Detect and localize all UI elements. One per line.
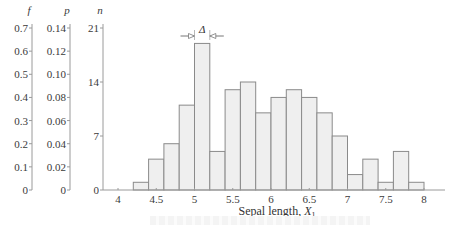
x-tick-label: 8	[421, 193, 427, 205]
n-tick-label: 7	[94, 130, 100, 142]
histogram-bar	[302, 97, 317, 190]
histogram-bar	[271, 97, 286, 190]
f-axis-label: f	[27, 4, 32, 16]
p-tick-label: 0.12	[47, 45, 66, 57]
n-axis: 071421n	[88, 4, 103, 196]
histogram-bar	[286, 90, 301, 190]
f-tick-label: 0.4	[14, 91, 28, 103]
f-tick-label: 0.2	[14, 138, 28, 150]
histogram-bar	[240, 82, 255, 190]
x-tick-label: 7.5	[379, 193, 393, 205]
histogram-bar	[256, 113, 271, 190]
f-tick-label: 0.5	[14, 68, 28, 80]
histogram-bar	[393, 151, 408, 190]
n-tick-label: 0	[94, 184, 100, 196]
p-tick-label: 0.14	[47, 22, 67, 34]
n-tick-label: 21	[88, 22, 99, 34]
faint-caption	[150, 216, 370, 225]
x-tick-label: 7	[345, 193, 351, 205]
delta-label: Δ	[198, 23, 205, 35]
p-tick-label: 0	[61, 184, 67, 196]
n-axis-label: n	[97, 4, 103, 16]
histogram-bar	[210, 151, 225, 190]
x-tick-label: 5	[192, 193, 198, 205]
histogram-bar	[332, 136, 347, 190]
f-tick-label: 0.1	[14, 161, 28, 173]
p-axis: 00.020.040.060.080.100.120.14p	[47, 4, 71, 196]
histogram-bar	[179, 105, 194, 190]
x-axis: 44.555.566.577.58	[103, 188, 445, 205]
f-axis: 00.10.20.30.40.50.60.7f	[14, 4, 32, 196]
histogram-bar	[348, 175, 363, 190]
histogram-chart: 00.10.20.30.40.50.60.7f 00.020.040.060.0…	[0, 0, 451, 230]
f-tick-label: 0.7	[14, 22, 28, 34]
f-tick-label: 0	[23, 184, 29, 196]
p-tick-label: 0.08	[47, 91, 67, 103]
histogram-bar	[133, 182, 148, 190]
x-tick-label: 4.5	[149, 193, 163, 205]
p-axis-label: p	[63, 4, 70, 16]
histogram-bar	[317, 113, 332, 190]
histogram-bar	[149, 159, 164, 190]
histogram-bar	[363, 159, 378, 190]
delta-annotation: Δ	[181, 23, 224, 40]
p-tick-label: 0.06	[47, 115, 67, 127]
p-tick-label: 0.02	[47, 161, 66, 173]
x-tick-label: 4	[115, 193, 121, 205]
histogram-bar	[195, 43, 210, 190]
f-tick-label: 0.6	[14, 45, 28, 57]
p-tick-label: 0.04	[47, 138, 67, 150]
histogram-bar	[164, 144, 179, 190]
f-tick-label: 0.3	[14, 115, 28, 127]
p-tick-label: 0.10	[47, 68, 67, 80]
histogram-bars	[133, 43, 424, 190]
n-tick-label: 14	[88, 76, 100, 88]
histogram-bar	[225, 90, 240, 190]
histogram-bar	[409, 182, 424, 190]
